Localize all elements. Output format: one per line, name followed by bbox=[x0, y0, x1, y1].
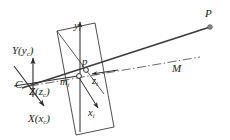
label-image-origin: mi bbox=[60, 77, 69, 88]
label-camera-center: C bbox=[15, 79, 22, 90]
label-image-axis-z: zi bbox=[92, 76, 98, 87]
point-marker-p bbox=[84, 68, 89, 73]
point-marker-P-world bbox=[208, 25, 213, 30]
projection-ray bbox=[22, 27, 210, 88]
label-image-axis-x: xi bbox=[88, 108, 94, 119]
label-camera-axis-z: Z(zc) bbox=[29, 86, 50, 97]
label-camera-axis-y: Y(yc) bbox=[12, 45, 33, 56]
point-marker-m-i bbox=[77, 74, 82, 79]
label-image-point-p: p bbox=[82, 56, 88, 67]
label-optical-axis-M: M bbox=[172, 63, 181, 74]
label-image-axis-y: yi bbox=[74, 21, 80, 32]
camera-projection-diagram: Y(yc) C Z(zc) X(xc) yi xi zi mi p P M bbox=[0, 0, 230, 140]
label-camera-axis-x: X(xc) bbox=[28, 113, 50, 124]
label-world-point-P: P bbox=[205, 8, 212, 19]
